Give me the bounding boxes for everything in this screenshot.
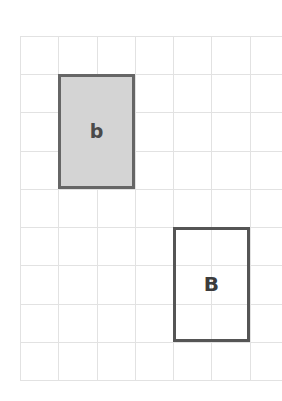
grid-line-vertical — [135, 36, 136, 380]
grid-line-horizontal — [20, 380, 282, 381]
figure-canvas: b B — [0, 0, 282, 401]
grid-line-vertical — [20, 36, 21, 380]
grid-line-vertical — [250, 36, 251, 380]
rectangle-B-label: B — [204, 274, 219, 294]
grid-line-horizontal — [20, 342, 282, 343]
grid-line-horizontal — [20, 189, 282, 190]
rectangle-b-label: b — [90, 122, 104, 141]
grid-line-horizontal — [20, 36, 282, 37]
rectangle-b[interactable]: b — [58, 74, 135, 189]
rectangle-B[interactable]: B — [173, 227, 250, 342]
